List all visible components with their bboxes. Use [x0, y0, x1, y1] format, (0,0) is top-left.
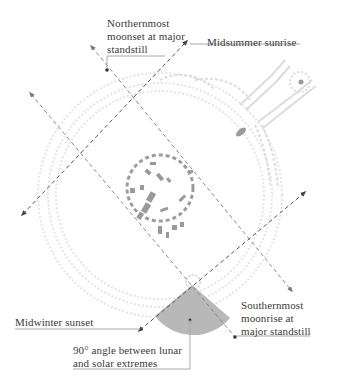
label-midwinter-sunset: Midwinter sunset: [15, 316, 93, 329]
henge-earthworks: [38, 73, 282, 317]
leader-dot: [105, 68, 109, 72]
ninety-degree-wedge: [155, 285, 230, 335]
trilithons: [130, 162, 193, 238]
heel-stone: [234, 126, 247, 138]
station-stone: [299, 80, 304, 85]
solar-alignment-line-1: [23, 42, 186, 214]
label-right-angle: 90° angle between lunar and solar extrem…: [73, 344, 182, 370]
sarsen-circle: [127, 155, 193, 221]
label-northernmost-moonset: Northernmost moonset at major standstill: [107, 17, 185, 56]
lunar-alignment-line-1: [92, 47, 291, 290]
label-southernmost-moonrise: Southernmost moonrise at major standstil…: [241, 299, 311, 338]
label-midsummer-sunrise: Midsummer sunrise: [207, 36, 296, 49]
avenue-earthworks: [160, 60, 316, 188]
lunar-alignment-line-2: [31, 94, 234, 336]
